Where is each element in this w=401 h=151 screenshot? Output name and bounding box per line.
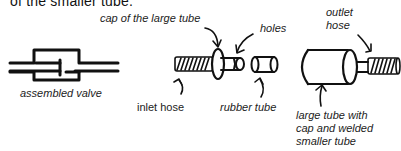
label-rubber-tube: rubber tube	[220, 101, 276, 114]
rubber-tube-icon	[252, 57, 278, 72]
label-assembled-valve: assembled valve	[20, 87, 102, 100]
arrow-inlet-icon	[174, 79, 183, 94]
label-large-tube-line3: smaller tube	[296, 135, 356, 148]
label-outlet-hose-line2: hose	[326, 19, 350, 32]
label-inlet-hose: inlet hose	[137, 101, 184, 114]
arrow-holes-icon	[236, 34, 253, 53]
label-large-tube-line1: large tube with	[296, 109, 368, 122]
large-tube-icon	[302, 50, 368, 84]
assembled-valve-icon	[10, 50, 118, 80]
cap-disc-icon	[212, 49, 224, 79]
inlet-hose-icon	[175, 57, 213, 71]
label-cap-of-large-tube: cap of the large tube	[100, 12, 200, 25]
arrow-rubber-icon	[255, 78, 263, 97]
arrow-large-tube-icon	[316, 85, 326, 106]
label-outlet-hose-line1: outlet	[326, 6, 353, 19]
label-large-tube-line2: cap and welded	[296, 122, 373, 135]
outlet-hose-icon	[368, 58, 400, 74]
arrow-outlet-icon	[358, 35, 371, 52]
label-holes: holes	[260, 22, 286, 35]
arrow-cap-icon	[205, 28, 221, 47]
